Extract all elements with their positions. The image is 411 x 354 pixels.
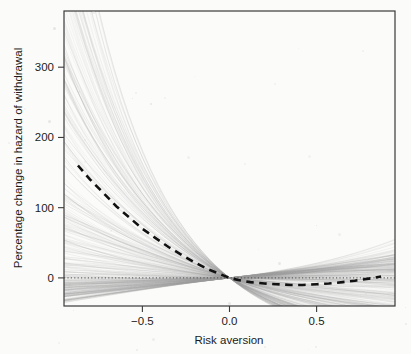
y-tick-label: 100 [35,202,54,214]
chart-svg: −0.50.00.5 0100200300 Risk aversion Perc… [0,0,411,354]
y-axis-title: Percentage change in hazard of withdrawa… [12,48,24,269]
x-axis-title: Risk aversion [194,334,263,346]
figure-container: −0.50.00.5 0100200300 Risk aversion Perc… [0,0,411,354]
y-tick-label: 300 [35,61,54,73]
y-tick-label: 0 [48,272,54,284]
x-tick-label: −0.5 [131,315,154,327]
x-tick-label: 0.5 [309,315,325,327]
x-tick-label: 0.0 [222,315,238,327]
y-tick-label: 200 [35,131,54,143]
